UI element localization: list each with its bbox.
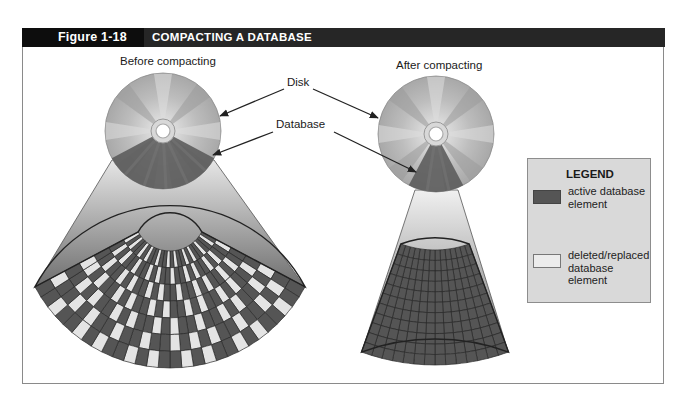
deleted-database-element [170, 334, 181, 351]
active-database-element [435, 281, 442, 292]
active-database-element [428, 281, 435, 292]
active-element-swatch [533, 190, 561, 204]
active-database-element [419, 302, 428, 313]
active-database-element [429, 260, 435, 271]
active-database-element [435, 354, 446, 365]
active-database-element [403, 352, 415, 364]
active-database-element [445, 343, 456, 354]
active-database-element [425, 344, 435, 355]
active-database-element [449, 290, 458, 301]
deleted-element-swatch [533, 254, 561, 268]
active-database-element [418, 312, 427, 323]
active-database-element [462, 330, 473, 342]
active-database-element [170, 284, 177, 301]
active-database-element [443, 312, 452, 323]
legend-title: LEGEND [566, 168, 614, 180]
active-database-element [159, 334, 170, 351]
active-database-element [435, 302, 443, 313]
after-disk-icon [378, 76, 494, 192]
active-database-element [426, 313, 435, 324]
active-database-element [428, 271, 435, 282]
active-database-element [435, 292, 443, 303]
active-database-element [414, 354, 425, 365]
after-database-fan [361, 238, 508, 365]
active-database-element [435, 271, 442, 282]
active-database-element [465, 350, 477, 362]
database-arrow-before [213, 132, 273, 155]
active-database-element [427, 302, 435, 313]
active-database-element [445, 354, 456, 365]
active-database-element [442, 281, 450, 292]
active-database-element [455, 352, 467, 364]
active-database-element [443, 302, 452, 313]
active-database-element [435, 260, 441, 271]
active-database-element [415, 343, 426, 354]
deleted-database-element [181, 350, 194, 368]
active-database-element [440, 250, 446, 261]
active-database-element [435, 323, 444, 334]
active-database-element [170, 301, 178, 318]
active-database-element [450, 301, 459, 312]
before-disk-icon [105, 73, 221, 189]
active-database-element [442, 291, 450, 302]
active-database-element [454, 342, 465, 354]
active-database-element [427, 292, 435, 303]
active-database-element [405, 342, 416, 354]
legend-deleted-label: deleted/replaced database element [568, 249, 652, 287]
before-compacting-label: Before compacting [120, 55, 216, 67]
active-database-element [452, 321, 462, 332]
active-database-element [441, 260, 448, 271]
disks [105, 73, 494, 192]
disk-arrow-before [220, 89, 284, 116]
database-callout-label: Database [276, 118, 325, 130]
legend-active-label: active database element [568, 185, 652, 210]
active-database-element [158, 351, 170, 368]
deleted-database-element [170, 268, 175, 285]
active-database-element [435, 344, 445, 355]
active-database-element [416, 333, 426, 344]
active-database-element [424, 354, 435, 365]
active-database-element [426, 323, 435, 334]
active-database-element [435, 313, 444, 324]
disk-arrow-after [313, 89, 378, 118]
after-compacting-label: After compacting [396, 59, 482, 71]
legend-box: LEGEND active database element deleted/r… [527, 158, 651, 303]
deleted-database-element [170, 318, 179, 335]
active-database-element [451, 311, 461, 322]
active-database-element [417, 322, 427, 333]
active-database-element [444, 333, 454, 344]
active-database-element [441, 270, 448, 281]
active-database-element [444, 322, 454, 333]
disk-callout-label: Disk [287, 76, 309, 88]
active-database-element [435, 250, 441, 261]
active-database-element [170, 351, 182, 368]
active-database-element [429, 250, 435, 261]
